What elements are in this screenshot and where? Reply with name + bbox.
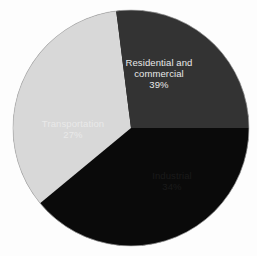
pie-slice-group [13,10,249,246]
pie-slice-transportation [116,10,249,128]
chart-page: Residential and commercial 39% Transport… [0,0,257,256]
pie-chart: Residential and commercial 39% Transport… [0,0,257,256]
pie-chart-svg [0,0,257,256]
